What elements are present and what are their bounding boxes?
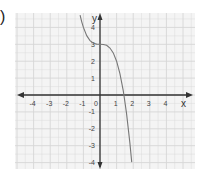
y-tick-label: 2 [91,58,95,65]
x-tick-label: -1 [79,100,85,107]
x-tick-label: -2 [63,100,69,107]
y-tick-label: 1 [91,75,95,82]
x-tick-label: 1 [114,100,118,107]
y-tick-label: -1 [89,108,95,115]
y-tick-label: -4 [89,159,95,166]
x-tick-label: 2 [130,100,134,107]
x-tick-label: -3 [46,100,52,107]
y-tick-label: 4 [91,24,95,31]
x-tick-label: 3 [147,100,151,107]
x-tick-label: 4 [163,100,167,107]
x-tick-label: -4 [29,100,35,107]
x-tick-label: 0 [94,100,98,107]
y-tick-label: -2 [89,125,95,132]
chart: -4-3-2-1012344321-1-2-3-4xy [0,0,201,176]
y-axis-label: y [92,13,97,24]
x-axis-label: x [181,98,186,109]
y-tick-label: -3 [89,142,95,149]
